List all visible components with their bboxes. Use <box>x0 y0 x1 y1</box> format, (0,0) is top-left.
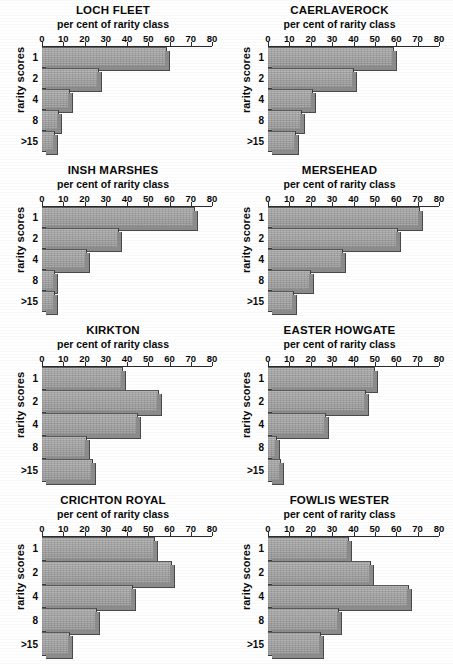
y-axis-tick-label: >15 <box>247 136 264 147</box>
x-axis-title: per cent of rarity class <box>226 177 453 190</box>
x-axis-tick-mark <box>439 42 440 46</box>
x-axis-tick-mark <box>289 42 290 46</box>
x-axis-tick-mark <box>375 532 376 536</box>
bar <box>42 436 87 459</box>
y-axis-tick-label: 8 <box>32 275 38 286</box>
x-axis-tick-mark <box>439 202 440 206</box>
y-axis-tick-label: 1 <box>258 372 264 383</box>
chart-panel: MERSEHEADper cent of rarity classrarity … <box>226 160 453 320</box>
x-axis-tick-mark <box>375 202 376 206</box>
x-axis-tick-mark <box>396 532 397 536</box>
bar <box>268 207 420 228</box>
x-axis-tick-mark <box>332 532 333 536</box>
x-axis-tick-mark <box>332 202 333 206</box>
x-axis-tick-mark <box>63 202 64 206</box>
x-axis-tick-mark <box>85 362 86 366</box>
x-axis-title: per cent of rarity class <box>0 337 226 350</box>
y-axis-tick-label: 2 <box>258 567 264 578</box>
plot-area: 01020304050607080 <box>268 536 439 656</box>
x-axis-title: per cent of rarity class <box>226 337 453 350</box>
bar <box>42 367 123 390</box>
x-axis-tick-mark <box>148 532 149 536</box>
x-axis-tick-mark <box>191 532 192 536</box>
x-axis-tick-mark <box>311 202 312 206</box>
x-axis-tick-mark <box>191 202 192 206</box>
x-axis-tick-mark <box>332 362 333 366</box>
bar <box>268 585 409 609</box>
x-axis-title: per cent of rarity class <box>226 17 453 30</box>
chart-title: CAERLAVEROCK <box>226 0 453 17</box>
bar <box>42 249 87 270</box>
chart-panel: INSH MARSHESper cent of rarity classrari… <box>0 160 226 320</box>
y-axis-labels: 1248>15 <box>20 536 40 656</box>
x-axis-tick-mark <box>170 42 171 46</box>
y-axis-tick-label: >15 <box>21 639 38 650</box>
y-axis-tick-label: 2 <box>32 567 38 578</box>
bar <box>268 249 343 270</box>
y-axis-tick-label: 4 <box>258 419 264 430</box>
bar <box>268 561 371 585</box>
bar-series <box>42 537 212 656</box>
x-axis-tick-mark <box>212 532 213 536</box>
y-axis-tick-label: >15 <box>21 465 38 476</box>
y-axis-labels: 1248>15 <box>246 536 266 656</box>
bar <box>42 561 172 585</box>
x-axis-tick-mark <box>106 362 107 366</box>
x-axis-tick-mark <box>127 532 128 536</box>
chart-title: FOWLIS WESTER <box>226 490 453 507</box>
x-axis-tick-mark <box>418 532 419 536</box>
x-axis-tick-mark <box>354 362 355 366</box>
x-axis-tick-mark <box>63 42 64 46</box>
bar-series <box>42 47 212 152</box>
y-axis-tick-label: >15 <box>21 296 38 307</box>
x-axis-tick-mark <box>148 362 149 366</box>
x-axis-tick-mark <box>354 202 355 206</box>
x-axis-tick-mark <box>127 202 128 206</box>
chart-panel: LOCH FLEETper cent of rarity classrarity… <box>0 0 226 160</box>
chart-panel: CAERLAVEROCKper cent of rarity classrari… <box>226 0 453 160</box>
y-axis-tick-label: 4 <box>258 94 264 105</box>
x-axis-tick-mark <box>396 202 397 206</box>
plot-area: 01020304050607080 <box>42 366 212 482</box>
x-axis-tick-mark <box>127 362 128 366</box>
y-axis-tick-label: 2 <box>32 395 38 406</box>
x-axis-tick-mark <box>63 532 64 536</box>
bar <box>42 68 99 89</box>
chart-panel: EASTER HOWGATEper cent of rarity classra… <box>226 320 453 490</box>
x-axis-tick-mark <box>191 42 192 46</box>
y-axis-tick-label: 2 <box>258 395 264 406</box>
x-axis-tick-mark <box>85 42 86 46</box>
y-axis-labels: 1248>15 <box>20 206 40 312</box>
plot-area: 01020304050607080 <box>268 366 439 482</box>
bar <box>42 537 155 561</box>
y-axis-labels: 1248>15 <box>20 46 40 152</box>
x-axis-tick-mark <box>354 42 355 46</box>
y-axis-tick-label: 1 <box>32 543 38 554</box>
bar-series <box>268 47 439 152</box>
x-axis-tick-mark <box>170 202 171 206</box>
x-axis-title: per cent of rarity class <box>0 17 226 30</box>
bar <box>42 228 119 249</box>
x-axis-tick-mark <box>170 362 171 366</box>
bar-series <box>42 367 212 482</box>
x-axis-tick-mark <box>148 42 149 46</box>
y-axis-tick-label: 4 <box>258 591 264 602</box>
x-axis-tick-mark <box>289 202 290 206</box>
bar <box>268 459 281 482</box>
bar <box>268 608 339 632</box>
y-axis-labels: 1248>15 <box>246 366 266 482</box>
y-axis-tick-label: 8 <box>258 115 264 126</box>
y-axis-tick-label: 1 <box>258 51 264 62</box>
bar <box>268 390 366 413</box>
y-axis-tick-label: 8 <box>258 442 264 453</box>
bar <box>268 632 321 656</box>
bar <box>268 131 296 152</box>
chart-grid: LOCH FLEETper cent of rarity classrarity… <box>0 0 453 664</box>
x-axis-tick-mark <box>63 362 64 366</box>
bar <box>42 131 55 152</box>
bar <box>42 270 55 291</box>
x-axis-tick-mark <box>148 202 149 206</box>
plot-area: 01020304050607080 <box>42 206 212 312</box>
bar <box>268 270 311 291</box>
x-axis-tick-mark <box>418 202 419 206</box>
